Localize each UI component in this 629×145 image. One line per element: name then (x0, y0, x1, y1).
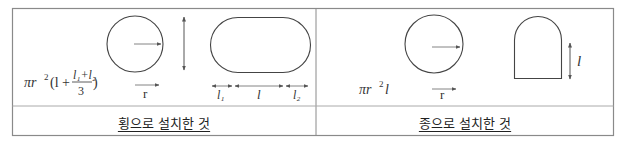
radius-label: r (143, 86, 148, 101)
diagram-canvas: πr 2 (l + l₁+l₂ 3 ) r l₁ l l₂ πr 2 l r l (0, 0, 629, 145)
horizontal-tank-group (107, 16, 311, 86)
formula-prefix: πr (359, 82, 372, 97)
height-label: l (577, 53, 581, 69)
vertical-formula: πr 2 l (359, 79, 389, 97)
formula-denominator: 3 (78, 84, 84, 98)
formula-close: ) (93, 75, 98, 91)
horizontal-caption: 횡으로 설치한 것 (118, 113, 210, 132)
tank-volume-diagram: πr 2 (l + l₁+l₂ 3 ) r l₁ l l₂ πr 2 l r l… (0, 0, 629, 145)
l-label: l (257, 87, 261, 102)
horizontal-formula: πr 2 (l + l₁+l₂ 3 ) (24, 68, 98, 98)
vertical-caption: 종으로 설치한 것 (419, 113, 511, 132)
formula-prefix: πr (24, 75, 37, 90)
cross-section-circle (405, 15, 463, 73)
capsule-tank-outline (211, 18, 311, 73)
dome-tank-outline (515, 16, 562, 78)
radius-label: r (440, 87, 445, 102)
vertical-tank-group (405, 15, 570, 89)
l1-label: l₁ (217, 88, 225, 102)
formula-exponent: 2 (379, 79, 384, 89)
formula-exponent: 2 (44, 72, 49, 82)
table-border (13, 9, 614, 136)
formula-suffix: l (385, 82, 389, 97)
l2-label: l₂ (293, 88, 301, 102)
formula-open: (l + (50, 75, 70, 91)
